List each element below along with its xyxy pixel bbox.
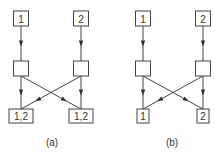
arrowhead-icon: [141, 90, 145, 96]
arrowhead-icon: [19, 41, 23, 47]
arrowhead-icon: [79, 90, 83, 96]
node-label: 2: [78, 14, 84, 25]
arrowhead-icon: [183, 96, 189, 101]
arrowhead-icon: [61, 96, 67, 101]
diagram-caption: (b): [166, 137, 178, 148]
diagram-canvas: 121,21,2(a) 1212(b): [0, 0, 215, 157]
node-label: 1,2: [74, 111, 88, 122]
arrowhead-icon: [201, 41, 205, 47]
arrowhead-icon: [141, 41, 145, 47]
diagram-b: 1212(b): [136, 11, 211, 148]
arrowhead-icon: [79, 41, 83, 47]
node-label: 1,2: [14, 111, 28, 122]
node-mid-left: [136, 61, 151, 76]
arrowhead-icon: [201, 90, 205, 96]
arrowhead-icon: [19, 90, 23, 96]
node-label: 2: [200, 111, 206, 122]
node-mid-right: [74, 61, 89, 76]
node-mid-right: [196, 61, 211, 76]
node-label: 1: [18, 14, 24, 25]
diagram-caption: (a): [46, 137, 58, 148]
diagram-a: 121,21,2(a): [9, 11, 93, 148]
node-mid-left: [14, 61, 29, 76]
arrowhead-icon: [35, 96, 41, 101]
node-label: 1: [140, 14, 146, 25]
node-label: 2: [200, 14, 206, 25]
arrowhead-icon: [157, 96, 163, 101]
node-label: 1: [140, 111, 146, 122]
